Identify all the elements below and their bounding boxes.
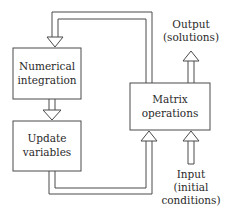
node-label: Numerical	[19, 60, 76, 72]
flow-diagram: Numerical integration Update variables M…	[0, 0, 228, 209]
node-label: variables	[22, 146, 72, 158]
input-label: Input (initial conditions)	[161, 168, 220, 206]
node-matrix-operations: Matrix operations	[130, 83, 210, 130]
svg-text:Output: Output	[172, 18, 210, 30]
node-label: Update	[28, 132, 67, 144]
svg-text:conditions): conditions)	[161, 194, 220, 206]
node-label: integration	[17, 74, 76, 86]
node-numerical-integration: Numerical integration	[13, 48, 81, 99]
arrow-integration-to-update	[43, 99, 61, 120]
arrow-input	[183, 131, 199, 164]
node-label: Matrix	[152, 93, 188, 105]
arrow-output	[183, 51, 199, 83]
svg-text:Input: Input	[177, 168, 206, 180]
node-label: operations	[142, 107, 199, 119]
node-update-variables: Update variables	[13, 121, 81, 171]
svg-text:(solutions): (solutions)	[163, 31, 219, 43]
diagram-svg: Numerical integration Update variables M…	[0, 0, 228, 209]
svg-text:(initial: (initial	[174, 181, 209, 193]
output-label: Output (solutions)	[163, 18, 219, 43]
